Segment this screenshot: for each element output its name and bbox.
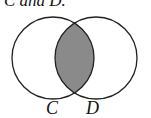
set-d-label: D — [86, 98, 99, 118]
set-c-label: C — [46, 98, 58, 118]
venn-diagram — [0, 0, 151, 118]
